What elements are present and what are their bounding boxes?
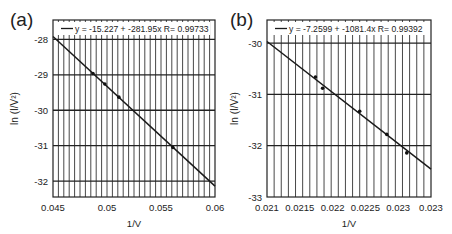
y-tick-label: -32: [34, 176, 48, 187]
data-point: [171, 146, 175, 150]
data-point: [117, 95, 121, 99]
y-tick-label: -30: [34, 105, 48, 116]
x-tick-label: 0.05: [98, 202, 117, 213]
x-tick-label: 0.045: [41, 202, 65, 213]
x-tick-label: 0.0215: [285, 202, 314, 213]
y-axis-label: ln (I/V²): [9, 92, 20, 125]
y-tick-label: -33: [248, 192, 262, 203]
x-tick-label: 0.06: [206, 202, 225, 213]
x-tick-label: 0.023: [386, 202, 410, 213]
data-point: [405, 151, 409, 155]
data-point: [385, 133, 389, 137]
data-point: [91, 72, 95, 76]
x-tick-label: 0.023: [419, 202, 443, 213]
x-tick-label: 0.055: [149, 202, 173, 213]
y-tick-label: -31: [248, 89, 262, 100]
y-tick-label: -32: [248, 140, 262, 151]
x-axis-label: 1/V: [127, 218, 142, 229]
y-tick-label: -28: [34, 34, 48, 45]
y-tick-label: -29: [34, 69, 48, 80]
y-axis-label: ln (I/V²): [229, 92, 240, 125]
data-point: [103, 82, 107, 86]
plot-a: y = -15.227 + -281.95x R= 0.99733-28-29-…: [0, 0, 226, 234]
chart-panel-a: (a) y = -15.227 + -281.95x R= 0.99733-28…: [0, 0, 226, 234]
chart-panel-b: (b) y = -7.2599 + -1081.4x R= 0.99392-30…: [226, 0, 452, 234]
x-tick-label: 0.021: [255, 202, 279, 213]
data-point: [314, 75, 318, 79]
data-point: [358, 110, 362, 114]
x-axis-label: 1/V: [342, 218, 357, 229]
plot-frame: [267, 20, 431, 197]
x-tick-label: 0.0225: [351, 202, 380, 213]
y-tick-label: -30: [248, 38, 262, 49]
fit-line: [267, 42, 431, 170]
data-point: [321, 86, 325, 90]
legend-text: y = -15.227 + -281.95x R= 0.99733: [75, 24, 209, 34]
legend-text: y = -7.2599 + -1081.4x R= 0.99392: [289, 24, 423, 34]
plot-b: y = -7.2599 + -1081.4x R= 0.99392-30-31-…: [226, 0, 452, 234]
x-tick-label: 0.022: [321, 202, 345, 213]
y-tick-label: -31: [34, 140, 48, 151]
